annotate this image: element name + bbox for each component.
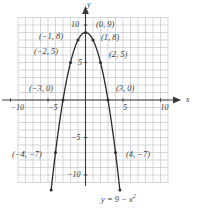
data-point (84, 31, 87, 34)
data-point (77, 39, 80, 42)
x-tick-label-3: 10 (161, 104, 169, 112)
x-tick-label-0: −10 (11, 104, 24, 112)
data-point (107, 99, 110, 102)
y-tick-label-1: 5 (78, 59, 82, 67)
point-label-7: (3, 0) (116, 84, 134, 93)
coordinate-plane (0, 0, 199, 209)
point-label-6: (2, 5) (109, 50, 127, 59)
point-label-8: (4, −7) (126, 150, 150, 159)
point-label-1: (−3, 0) (29, 84, 53, 93)
data-point (114, 151, 117, 154)
point-label-2: (−2, 5) (34, 47, 58, 56)
graph-figure: (−4, −7)(−3, 0)(−2, 5)(−1, 8)(0, 9)(1, 8… (0, 0, 199, 209)
data-point (54, 151, 57, 154)
curve-endpoint (118, 189, 121, 192)
data-point (69, 61, 72, 64)
y-axis-label: y (87, 1, 91, 9)
axes (2, 6, 181, 186)
curve-endpoint (50, 189, 53, 192)
data-point (62, 99, 65, 102)
y-tick-label-3: −10 (67, 171, 80, 179)
y-tick-label-0: 10 (71, 21, 79, 29)
x-axis-label: x (186, 96, 190, 104)
data-point (99, 61, 102, 64)
point-label-3: (−1, 8) (39, 32, 63, 41)
x-axis-arrow (173, 97, 181, 104)
point-label-4: (0, 9) (96, 20, 114, 29)
point-label-0: (−4, −7) (12, 150, 42, 159)
x-tick-label-1: −5 (48, 104, 57, 112)
x-tick-label-2: 5 (123, 104, 127, 112)
equation-label: y = 9 − x2 (101, 193, 136, 203)
y-tick-label-2: −5 (71, 134, 80, 142)
point-label-5: (1, 8) (101, 33, 119, 42)
data-point (92, 39, 95, 42)
